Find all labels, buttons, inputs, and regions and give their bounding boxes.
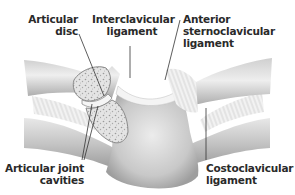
label-line: Anterior [183, 13, 293, 25]
label-articular-disc: Articular disc [10, 13, 78, 37]
label-line: sternoclavicular [183, 25, 293, 37]
label-line: disc [10, 25, 78, 37]
label-interclavicular-ligament: Interclavicular ligament [92, 13, 172, 37]
label-line: cavities [4, 174, 84, 186]
label-anterior-sternoclavicular-ligament: Anterior sternoclavicular ligament [183, 13, 293, 49]
label-costoclavicular-ligament: Costoclavicular ligament [206, 162, 295, 186]
label-line: Costoclavicular [206, 162, 295, 174]
label-line: Articular [10, 13, 78, 25]
label-line: Articular joint [4, 162, 84, 174]
label-line: ligament [183, 37, 293, 49]
label-articular-joint-cavities: Articular joint cavities [4, 162, 84, 186]
label-line: Interclavicular [92, 13, 172, 25]
label-line: ligament [206, 174, 295, 186]
label-line: ligament [92, 25, 172, 37]
